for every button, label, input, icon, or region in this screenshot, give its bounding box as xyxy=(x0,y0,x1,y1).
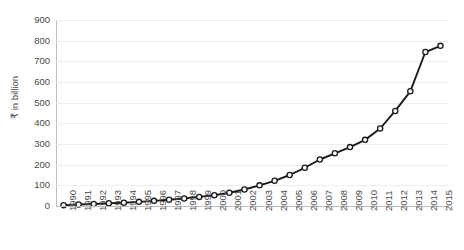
x-tick-label-2002: 2002 xyxy=(248,190,258,211)
y-tick-label-400: 400 xyxy=(16,118,50,128)
x-tick-label-1998: 1998 xyxy=(188,190,198,211)
y-tick-label-300: 300 xyxy=(16,139,50,149)
x-tick-label-2000: 2000 xyxy=(218,190,228,211)
line-chart: ₹ in billion 010020030040050060070080090… xyxy=(0,0,464,250)
data-point-2003 xyxy=(257,183,262,188)
x-tick-label-2015: 2015 xyxy=(444,190,454,211)
data-point-2015 xyxy=(438,43,443,48)
x-tick-label-1996: 1996 xyxy=(158,190,168,211)
x-tick-label-2009: 2009 xyxy=(354,190,364,211)
data-point-2010 xyxy=(362,137,367,142)
x-tick-label-2003: 2003 xyxy=(264,190,274,211)
x-tick-label-2010: 2010 xyxy=(369,190,379,211)
data-point-2011 xyxy=(378,126,383,131)
x-tick-label-1991: 1991 xyxy=(83,190,93,211)
data-point-2005 xyxy=(287,172,292,177)
x-tick-label-2005: 2005 xyxy=(294,190,304,211)
x-tick-label-2014: 2014 xyxy=(429,190,439,211)
data-point-2007 xyxy=(317,157,322,162)
x-tick-label-2012: 2012 xyxy=(399,190,409,211)
data-point-2006 xyxy=(302,165,307,170)
y-tick-label-900: 900 xyxy=(16,15,50,25)
x-tick-label-1994: 1994 xyxy=(128,190,138,211)
data-point-2008 xyxy=(332,151,337,156)
y-tick-label-800: 800 xyxy=(16,36,50,46)
x-tick-label-2001: 2001 xyxy=(233,190,243,211)
y-tick-label-100: 100 xyxy=(16,180,50,190)
x-tick-label-1990: 1990 xyxy=(68,190,78,211)
y-tick-label-700: 700 xyxy=(16,56,50,66)
y-tick-label-200: 200 xyxy=(16,160,50,170)
plot-area xyxy=(56,20,448,206)
data-point-2013 xyxy=(408,89,413,94)
x-tick-label-1995: 1995 xyxy=(143,190,153,211)
x-tick-label-2004: 2004 xyxy=(279,190,289,211)
x-tick-label-2011: 2011 xyxy=(384,191,394,211)
data-point-2004 xyxy=(272,178,277,183)
series-path xyxy=(64,46,441,205)
x-tick-label-2007: 2007 xyxy=(324,190,334,211)
x-tick-label-1999: 1999 xyxy=(203,190,213,211)
x-tick-label-2008: 2008 xyxy=(339,190,349,211)
data-point-markers xyxy=(61,43,443,208)
series-line-chart xyxy=(56,20,448,206)
y-tick-label-500: 500 xyxy=(16,98,50,108)
data-point-2014 xyxy=(423,49,428,54)
data-point-2012 xyxy=(393,108,398,113)
y-tick-label-600: 600 xyxy=(16,77,50,87)
x-tick-label-2006: 2006 xyxy=(309,190,319,211)
x-tick-label-1992: 1992 xyxy=(98,190,108,211)
y-tick-label-0: 0 xyxy=(16,201,50,211)
data-point-2009 xyxy=(347,145,352,150)
x-tick-label-1993: 1993 xyxy=(113,190,123,211)
x-tick-label-1997: 1997 xyxy=(173,190,183,211)
x-tick-label-2013: 2013 xyxy=(414,190,424,211)
